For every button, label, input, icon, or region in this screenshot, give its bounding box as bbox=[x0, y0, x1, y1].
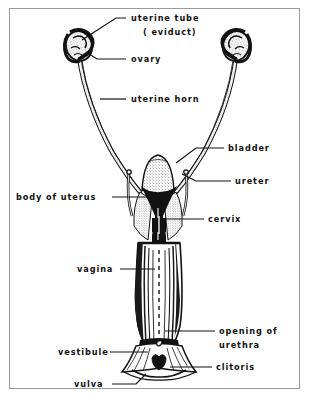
label-vulva: vulva bbox=[74, 379, 103, 389]
left-ovary bbox=[62, 28, 95, 64]
label-uterine-tube: uterine tube bbox=[131, 13, 199, 23]
label-vagina: vagina bbox=[77, 264, 113, 274]
label-body-of-uterus: body of uterus bbox=[16, 192, 96, 202]
figure-root: uterine tube ( eviduct) ovary uterine ho… bbox=[0, 0, 311, 416]
label-clitoris: clitoris bbox=[216, 362, 255, 372]
label-cervix: cervix bbox=[208, 214, 241, 224]
label-ureter: ureter bbox=[235, 176, 269, 186]
right-ovary bbox=[219, 28, 252, 64]
bladder bbox=[142, 155, 174, 193]
label-ovary: ovary bbox=[131, 54, 161, 64]
label-opening-of-urethra: opening of bbox=[219, 326, 277, 336]
anatomical-diagram: uterine tube ( eviduct) ovary uterine ho… bbox=[0, 0, 311, 416]
vagina bbox=[136, 243, 183, 345]
leader-vulva bbox=[112, 374, 146, 384]
left-uterine-horn bbox=[79, 57, 142, 192]
label-uterine-tube-line2: ( eviduct) bbox=[143, 27, 197, 37]
left-ureter bbox=[127, 170, 132, 216]
label-opening-of-urethra-line2: urethra bbox=[219, 340, 260, 350]
label-vestibule: vestibule bbox=[58, 347, 109, 357]
label-uterine-horn: uterine horn bbox=[131, 94, 200, 104]
label-bladder: bladder bbox=[228, 143, 270, 153]
